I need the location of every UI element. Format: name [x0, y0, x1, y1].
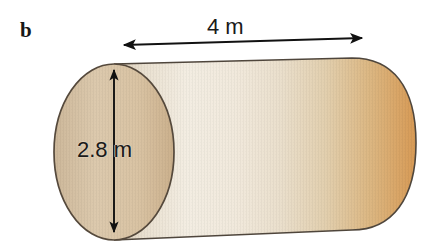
cylinder-figure: b 4 m 2.8 m [0, 0, 446, 246]
diameter-dimension-label: 2.8 m [77, 139, 132, 161]
part-label: b [20, 20, 32, 41]
length-dimension-label: 4 m [207, 16, 244, 38]
length-dimension-arrow [124, 38, 362, 45]
